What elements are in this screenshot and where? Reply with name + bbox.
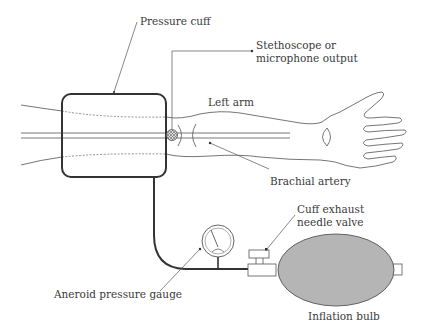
needle-valve-icon (248, 250, 276, 276)
stethoscope-icon (167, 130, 178, 141)
label-pressure-cuff: Pressure cuff (140, 15, 211, 28)
label-cuff-exhaust-line2: needle valve (297, 216, 364, 229)
pressure-cuff (62, 94, 166, 177)
inflation-bulb-icon (278, 234, 402, 306)
label-aneroid-gauge: Aneroid pressure gauge (54, 288, 182, 301)
label-inflation-bulb: Inflation bulb (308, 310, 380, 323)
bp-measurement-diagram (0, 0, 427, 335)
label-cuff-exhaust: Cuff exhaust needle valve (297, 203, 364, 229)
sound-wave-icon (178, 124, 196, 147)
aneroid-gauge-icon (202, 225, 234, 269)
label-left-arm: Left arm (208, 96, 254, 109)
label-brachial-artery: Brachial artery (270, 175, 351, 188)
label-stethoscope: Stethoscope or microphone output (256, 39, 358, 65)
label-cuff-exhaust-line1: Cuff exhaust (297, 203, 364, 216)
label-stethoscope-line2: microphone output (256, 52, 358, 65)
label-stethoscope-line1: Stethoscope or (256, 39, 358, 52)
